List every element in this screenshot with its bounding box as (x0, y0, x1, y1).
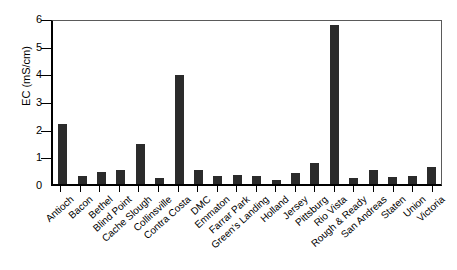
bar (427, 167, 436, 184)
y-tick-label: 0 (18, 179, 42, 191)
bar-slot (325, 21, 344, 184)
bar (155, 178, 164, 184)
bar-slot (422, 21, 441, 184)
bar (175, 75, 184, 184)
bar (213, 176, 222, 184)
bar-series (53, 21, 441, 184)
bar (252, 176, 261, 184)
bar (330, 25, 339, 184)
bar-slot (131, 21, 150, 184)
bar (310, 163, 319, 184)
bar-slot (150, 21, 169, 184)
bar (194, 170, 203, 184)
bar-slot (208, 21, 227, 184)
bar-slot (364, 21, 383, 184)
bar-slot (383, 21, 402, 184)
bar-slot (228, 21, 247, 184)
bar (388, 177, 397, 184)
bar (408, 176, 417, 184)
bar-slot (247, 21, 266, 184)
bar-slot (286, 21, 305, 184)
y-tick-label: 2 (18, 124, 42, 136)
bar-slot (92, 21, 111, 184)
y-tick-label: 4 (18, 68, 42, 80)
bar-slot (266, 21, 285, 184)
bar (349, 178, 358, 184)
bar (272, 180, 281, 184)
bar (78, 176, 87, 184)
bar (233, 175, 242, 184)
chart-figure: EC (mS/cm) 0123456 AntiochBaconBethelBli… (0, 0, 457, 270)
bar-slot (111, 21, 130, 184)
bar (369, 170, 378, 184)
y-tick-label: 5 (18, 41, 42, 53)
plot-area (51, 20, 442, 186)
bar (291, 173, 300, 184)
bar (136, 144, 145, 184)
bar-slot (189, 21, 208, 184)
y-tick-label: 1 (18, 151, 42, 163)
bar-slot (53, 21, 72, 184)
bar (116, 170, 125, 184)
bar (97, 172, 106, 184)
bar-slot (72, 21, 91, 184)
bar-slot (402, 21, 421, 184)
x-axis-labels: AntiochBaconBethelBlind PointCache Sloug… (51, 192, 442, 270)
y-tick-label: 3 (18, 96, 42, 108)
bar-slot (344, 21, 363, 184)
bar-slot (169, 21, 188, 184)
y-tick-label: 6 (18, 13, 42, 25)
bar-slot (305, 21, 324, 184)
bar (58, 124, 67, 184)
